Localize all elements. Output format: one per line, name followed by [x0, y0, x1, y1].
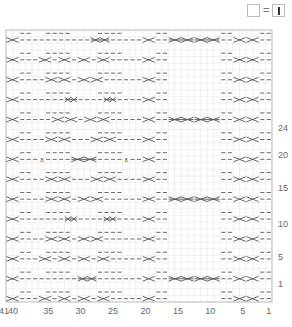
svg-text:8: 8	[40, 157, 44, 163]
y-tick-label: 1	[278, 279, 283, 289]
x-tick-label: 30	[76, 306, 86, 316]
y-tick-label: 24	[278, 123, 288, 133]
x-tick-label: 15	[173, 306, 183, 316]
x-tick-label: 40	[8, 306, 18, 316]
y-tick-label: 10	[278, 219, 288, 229]
y-tick-label: 15	[278, 183, 288, 193]
x-tick-label: 1	[266, 306, 271, 316]
x-tick-label: 20	[140, 306, 150, 316]
chart-border	[6, 30, 272, 302]
chart-grid	[6, 30, 272, 302]
svg-text:8: 8	[125, 157, 129, 163]
y-tick-label: 20	[278, 150, 288, 160]
x-tick-label: 5	[240, 306, 245, 316]
x-tick-label: 10	[205, 306, 215, 316]
knitting-chart: 884140353025201510512420151051	[0, 0, 292, 327]
chart-symbols: 88	[7, 33, 271, 301]
y-tick-label: 5	[278, 252, 283, 262]
x-axis-labels: 414035302520151051	[0, 306, 271, 316]
y-axis-labels: 2420151051	[278, 123, 288, 289]
x-tick-label: 25	[108, 306, 118, 316]
x-tick-label: 35	[43, 306, 53, 316]
